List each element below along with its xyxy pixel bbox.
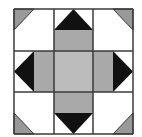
corner-triangle-top-right — [113, 9, 133, 30]
corner-triangle-bottom-right — [113, 113, 133, 134]
quilt-block-diagram — [0, 0, 142, 137]
arm-rect-left — [34, 51, 54, 92]
corner-triangle-bottom-left — [14, 113, 34, 134]
center-square — [54, 51, 93, 92]
corner-triangle-top-left — [14, 9, 34, 30]
point-triangle-left — [14, 51, 34, 92]
arm-rect-right — [93, 51, 113, 92]
point-triangle-right — [113, 51, 133, 92]
arm-rect-top — [54, 30, 93, 51]
point-triangle-top — [54, 9, 93, 30]
point-triangle-bottom — [54, 113, 93, 134]
arm-rect-bottom — [54, 92, 93, 113]
